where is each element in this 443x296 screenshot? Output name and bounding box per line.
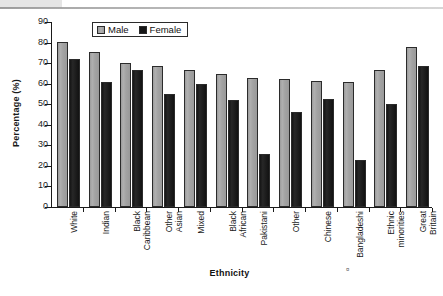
bar-male xyxy=(311,81,322,207)
bar-group xyxy=(247,22,271,207)
x-tick-label: GreatBritain xyxy=(419,211,438,271)
y-tick-label: 60 xyxy=(38,78,48,88)
legend-item-female: Female xyxy=(139,24,182,35)
bar-male xyxy=(406,47,417,207)
bar-female xyxy=(164,94,175,207)
y-tick-label: 40 xyxy=(38,119,48,129)
x-tick-label: White xyxy=(70,211,80,271)
y-tick-label: 20 xyxy=(38,160,48,170)
y-tick-label: 0 xyxy=(43,201,48,211)
bar-male xyxy=(89,52,100,207)
bar-female xyxy=(259,154,270,207)
bar-female xyxy=(132,70,143,207)
bar-group xyxy=(216,22,240,207)
bar-group xyxy=(184,22,208,207)
bar-female xyxy=(101,82,112,207)
x-group-tick xyxy=(83,208,84,212)
y-tick-label: 50 xyxy=(38,98,48,108)
bar-group xyxy=(406,22,430,207)
x-axis-title-wrap: Ethnicity xyxy=(0,268,443,278)
x-group-tick xyxy=(273,208,274,212)
x-axis-tick-labels: WhiteIndianBlackCaribbeanOtherAsianMixed… xyxy=(51,213,432,265)
bar-group xyxy=(374,22,398,207)
y-tick-label: 30 xyxy=(38,139,48,149)
bar-male xyxy=(247,78,258,208)
chart-legend: Male Female xyxy=(92,22,188,37)
x-group-tick xyxy=(210,208,211,212)
bar-male xyxy=(343,82,354,207)
bar-female xyxy=(418,66,429,207)
x-tick-label: Other xyxy=(292,211,302,271)
legend-item-male: Male xyxy=(97,24,129,35)
x-tick-label: OtherAsian xyxy=(165,211,184,271)
x-tick-label: Ethnicminorities xyxy=(387,211,406,271)
y-tick-label: 90 xyxy=(38,16,48,26)
x-axis-title: Ethnicity xyxy=(210,268,250,278)
y-tick-label: 70 xyxy=(38,57,48,67)
bar-group xyxy=(120,22,144,207)
legend-label-female: Female xyxy=(150,24,182,35)
scan-artifact-line xyxy=(0,7,443,9)
legend-label-male: Male xyxy=(108,24,129,35)
bar-group xyxy=(279,22,303,207)
male-swatch-icon xyxy=(97,26,105,34)
x-tick-label: BlackCaribbean xyxy=(133,211,152,271)
y-tick-label: 80 xyxy=(38,37,48,47)
bar-female xyxy=(323,99,334,207)
x-group-tick xyxy=(305,208,306,212)
bar-group xyxy=(311,22,335,207)
x-tick-label: Chinese xyxy=(324,211,334,271)
x-tick-label: Indian xyxy=(102,211,112,271)
x-group-tick xyxy=(115,208,116,212)
y-tick-label: 10 xyxy=(38,180,48,190)
bar-male xyxy=(120,63,131,207)
bar-male xyxy=(279,79,290,207)
y-axis-title: Percentage (%) xyxy=(11,53,21,173)
bar-female xyxy=(228,100,239,207)
bar-male xyxy=(374,70,385,207)
bar-group xyxy=(89,22,113,207)
bar-group xyxy=(57,22,81,207)
bar-chart-figure: ¤ Percentage (%) 0102030405060708090 Whi… xyxy=(0,0,443,296)
x-tick-label: Bangladeshi xyxy=(356,211,366,271)
bar-male xyxy=(57,42,68,207)
bar-group xyxy=(152,22,176,207)
x-tick-label: BlackAfrican xyxy=(229,211,248,271)
x-group-tick xyxy=(337,208,338,212)
bar-female xyxy=(196,84,207,207)
bar-group xyxy=(343,22,367,207)
plot-area: 0102030405060708090 xyxy=(51,22,432,208)
x-tick-label: Mixed xyxy=(197,211,207,271)
bar-female xyxy=(291,112,302,207)
x-tick-label: Pakistani xyxy=(260,211,270,271)
bar-female xyxy=(386,104,397,207)
bar-male xyxy=(152,66,163,207)
bar-male xyxy=(184,70,195,207)
x-group-tick xyxy=(369,208,370,212)
bar-female xyxy=(355,160,366,207)
y-axis-line xyxy=(51,22,52,208)
bar-male xyxy=(216,74,227,207)
female-swatch-icon xyxy=(139,26,147,34)
bar-female xyxy=(69,59,80,207)
